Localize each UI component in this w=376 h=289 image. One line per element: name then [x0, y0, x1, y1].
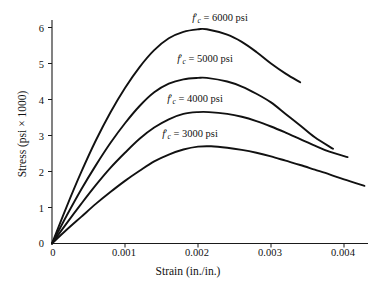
- stress-strain-figure: 6 5 4 3 2 1 0 0 0.001 0.002 0.003 0.004 …: [0, 0, 376, 289]
- ytick-label-6: 6: [30, 23, 44, 34]
- series-label-6000: f′c = 6000 psi: [192, 12, 248, 25]
- series-label-4000: f′c = 4000 psi: [167, 93, 223, 106]
- xtick-label-0003: 0.003: [258, 247, 282, 258]
- ytick-label-5: 5: [30, 59, 44, 70]
- xtick-label-0002: 0.002: [185, 247, 209, 258]
- xtick-label-0001: 0.001: [112, 247, 136, 258]
- ytick-label-3: 3: [30, 131, 44, 142]
- series-label-5000: f′c = 5000 psi: [177, 53, 233, 66]
- ytick-label-4: 4: [30, 95, 44, 106]
- xtick-label-0004: 0.004: [331, 247, 355, 258]
- ytick-label-0: 0: [30, 238, 44, 249]
- series-label-text-3000: = 3000 psi: [171, 128, 218, 139]
- series-label-text-4000: = 4000 psi: [176, 93, 223, 104]
- y-axis-title: Stress (psi × 1000): [16, 49, 28, 219]
- xtick-label-0: 0: [50, 247, 55, 258]
- y-axis-ticks: [48, 28, 52, 208]
- x-axis-ticks: [125, 244, 344, 248]
- ytick-label-1: 1: [30, 203, 44, 214]
- ytick-label-2: 2: [30, 167, 44, 178]
- series-label-text-5000: = 5000 psi: [186, 53, 233, 64]
- plot-area: [0, 0, 376, 289]
- series-label-3000: f′c = 3000 psi: [162, 128, 218, 141]
- x-axis-title: Strain (in./in.): [0, 265, 376, 277]
- series-label-text-6000: = 6000 psi: [201, 12, 248, 23]
